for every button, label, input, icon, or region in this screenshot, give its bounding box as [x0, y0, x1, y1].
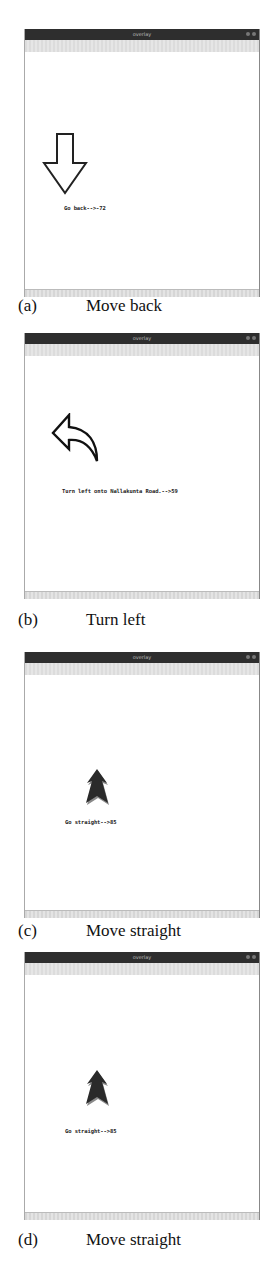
arrow-down-outline-icon — [42, 133, 88, 195]
window-controls — [246, 655, 256, 659]
caption-a: (a)Move back — [18, 296, 162, 316]
window-close-button[interactable] — [252, 955, 256, 959]
panel-a-window: overlay Go back-->-72 — [24, 29, 260, 297]
window-toolbar — [25, 963, 259, 975]
window-statusbar — [25, 910, 259, 918]
window-controls — [246, 955, 256, 959]
caption-b: (b)Turn left — [18, 610, 145, 630]
caption-label: (c) — [18, 921, 86, 941]
caption-text: Turn left — [86, 610, 145, 629]
window-titlebar: overlay — [25, 652, 259, 663]
caption-label: (a) — [18, 296, 86, 316]
navigation-message: Go straight-->85 — [65, 819, 116, 825]
caption-text: Move straight — [86, 921, 181, 940]
caption-d: (d)Move straight — [18, 1230, 181, 1250]
window-minimize-button[interactable] — [246, 955, 250, 959]
caption-text: Move straight — [86, 1230, 181, 1249]
panel-d-window: overlay Go straight-->85 — [24, 952, 260, 1220]
window-minimize-button[interactable] — [246, 32, 250, 36]
window-title: overlay — [133, 31, 152, 37]
window-title: overlay — [133, 954, 152, 960]
window-statusbar — [25, 1212, 259, 1220]
arrow-up-filled-icon — [84, 1068, 110, 1108]
navigation-message: Go back-->-72 — [64, 205, 106, 211]
window-minimize-button[interactable] — [246, 655, 250, 659]
window-controls — [246, 32, 256, 36]
window-close-button[interactable] — [252, 655, 256, 659]
caption-text: Move back — [86, 296, 162, 315]
window-title: overlay — [133, 335, 152, 341]
window-toolbar — [25, 663, 259, 675]
window-minimize-button[interactable] — [246, 336, 250, 340]
navigation-message: Turn left onto Nallakunta Road.-->59 — [62, 488, 178, 494]
panel-b-window: overlay Turn left onto Nallakunta Road.-… — [24, 333, 260, 599]
window-toolbar — [25, 344, 259, 356]
caption-label: (d) — [18, 1230, 86, 1250]
window-statusbar — [25, 591, 259, 599]
arrow-up-filled-icon — [84, 767, 110, 807]
panel-c-window: overlay Go straight-->85 — [24, 652, 260, 918]
window-close-button[interactable] — [252, 336, 256, 340]
window-titlebar: overlay — [25, 333, 259, 344]
caption-label: (b) — [18, 610, 86, 630]
arrow-turn-left-icon — [51, 413, 107, 465]
window-controls — [246, 336, 256, 340]
window-titlebar: overlay — [25, 952, 259, 963]
window-close-button[interactable] — [252, 32, 256, 36]
caption-c: (c)Move straight — [18, 921, 181, 941]
window-title: overlay — [133, 654, 152, 660]
window-titlebar: overlay — [25, 29, 259, 40]
navigation-message: Go straight-->85 — [65, 1128, 116, 1134]
window-toolbar — [25, 40, 259, 52]
